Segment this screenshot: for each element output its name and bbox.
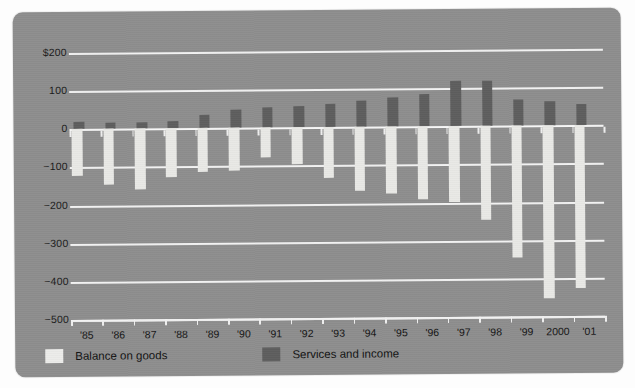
x-axis-label: '85 (80, 329, 94, 341)
bar-balance-on-goods (511, 126, 523, 258)
legend-item: Balance on goods (45, 348, 167, 363)
bar-balance-on-goods (229, 128, 240, 170)
gridline-200 (69, 49, 603, 55)
y-axis-label: −200 (16, 199, 68, 211)
bar-services-and-income (388, 98, 399, 127)
chart-legend: Balance on goodsServices and income (45, 346, 399, 363)
bar-balance-on-goods (354, 127, 365, 190)
x-axis-label: '93 (331, 327, 345, 339)
bar-services-and-income (513, 100, 524, 126)
x-axis-label: 2000 (546, 325, 569, 337)
zero-line-tick (603, 127, 605, 133)
bar-services-and-income (576, 103, 587, 125)
x-axis-tick (605, 316, 607, 322)
gridline--200 (70, 201, 604, 207)
bar-services-and-income (168, 121, 179, 129)
bar-balance-on-goods (543, 125, 555, 297)
bar-balance-on-goods (260, 128, 271, 157)
bar-balance-on-goods (417, 126, 428, 199)
x-axis-label: '01 (582, 325, 596, 337)
bar-balance-on-goods (197, 128, 208, 172)
bar-balance-on-goods (72, 129, 83, 176)
gridline--300 (70, 239, 604, 245)
bar-balance-on-goods (386, 127, 397, 193)
bar-services-and-income (262, 107, 273, 127)
y-axis-label: 0 (15, 122, 67, 134)
legend-swatch-dark (262, 347, 280, 361)
bar-services-and-income (450, 81, 461, 126)
x-axis-label: '88 (174, 328, 188, 340)
bar-balance-on-goods (323, 127, 334, 178)
y-axis-label: −300 (16, 237, 68, 249)
x-axis-label: '90 (237, 328, 251, 340)
bar-services-and-income (419, 94, 430, 126)
x-axis-label: '91 (268, 327, 282, 339)
x-axis-label: '96 (425, 326, 439, 338)
chart-panel: $2001000−100−200−300−400−500'85'86'87'88… (13, 8, 624, 378)
bar-services-and-income (545, 101, 556, 125)
legend-label: Services and income (292, 347, 399, 360)
x-axis-label: '89 (206, 328, 220, 340)
x-axis-label: '97 (457, 326, 471, 338)
bar-balance-on-goods (166, 128, 177, 177)
y-axis-label: −400 (17, 275, 69, 287)
x-axis-label: '94 (363, 327, 377, 339)
x-axis-label: '92 (300, 327, 314, 339)
legend-item: Services and income (262, 346, 399, 361)
bar-services-and-income (293, 106, 304, 127)
bar-services-and-income (231, 110, 242, 128)
bar-balance-on-goods (480, 126, 491, 220)
y-axis-label: $200 (15, 46, 67, 58)
gridline--400 (71, 278, 605, 284)
bar-services-and-income (356, 100, 367, 127)
bar-balance-on-goods (449, 126, 460, 202)
bar-balance-on-goods (292, 127, 303, 164)
y-axis-label: −500 (17, 313, 69, 325)
x-axis-label: '86 (111, 329, 125, 341)
x-axis-label: '87 (143, 328, 157, 340)
x-axis-line (71, 316, 605, 322)
chart-screenshot: $2001000−100−200−300−400−500'85'86'87'88… (0, 0, 635, 388)
gridline-100 (69, 87, 603, 93)
bar-services-and-income (199, 115, 210, 128)
y-axis-label: −100 (16, 160, 68, 172)
plot-area: $2001000−100−200−300−400−500'85'86'87'88… (13, 8, 624, 378)
bar-services-and-income (325, 103, 336, 127)
gridline--100 (70, 163, 604, 169)
bar-balance-on-goods (574, 125, 586, 288)
x-axis-label: '95 (394, 326, 408, 338)
bar-balance-on-goods (135, 129, 146, 190)
x-axis-label: '98 (488, 326, 502, 338)
legend-label: Balance on goods (75, 349, 167, 362)
legend-swatch-light (45, 349, 63, 363)
bar-services-and-income (74, 121, 85, 129)
x-axis-label: '99 (520, 325, 534, 337)
y-axis-label: 100 (15, 84, 67, 96)
bar-balance-on-goods (103, 129, 114, 184)
gridline-0 (69, 125, 603, 131)
bar-services-and-income (482, 81, 493, 126)
